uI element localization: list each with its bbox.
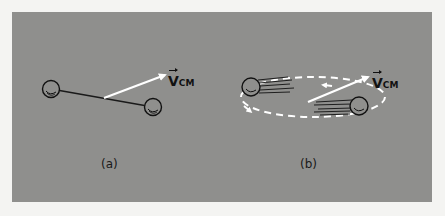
vector-subscript: CM bbox=[179, 78, 195, 88]
ball-left-a-icon bbox=[43, 81, 60, 98]
physics-diagram bbox=[0, 0, 445, 216]
orbit-direction-arrow-left-icon bbox=[244, 106, 250, 111]
ball-left-b-icon bbox=[242, 78, 260, 96]
ball-right-b-icon bbox=[350, 97, 368, 115]
caption-b: (b) bbox=[300, 157, 317, 171]
caption-a: (a) bbox=[101, 157, 118, 171]
ball-right-a-icon bbox=[145, 99, 162, 116]
orbit-direction-arrow-top-icon bbox=[324, 85, 332, 86]
panel-b-drawing bbox=[241, 77, 385, 117]
vector-symbol: V bbox=[168, 73, 179, 89]
vcm-arrow-a-icon bbox=[104, 75, 165, 98]
vcm-label-b: VCM bbox=[372, 75, 398, 91]
vector-subscript: CM bbox=[383, 80, 399, 90]
motion-streaks-right-icon bbox=[314, 100, 352, 115]
vcm-label-a: VCM bbox=[168, 73, 194, 89]
vector-symbol: V bbox=[372, 75, 383, 91]
panel-a-drawing bbox=[43, 75, 166, 116]
connecting-rod bbox=[51, 89, 153, 107]
